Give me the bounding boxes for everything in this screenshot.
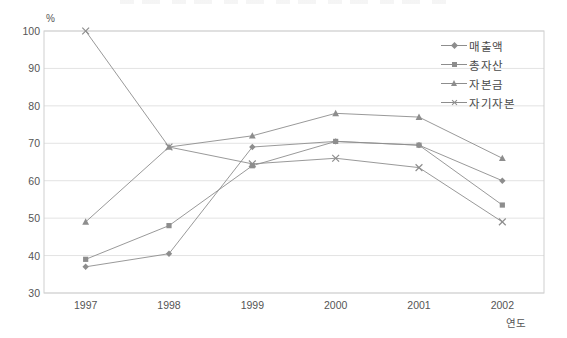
data-point-diamond xyxy=(82,264,88,270)
chart-legend: 매출액총자산자본금자기자본 xyxy=(441,38,515,110)
legend-marker-triangle-icon xyxy=(441,77,467,90)
x-axis-tick-label: 2001 xyxy=(407,299,430,311)
legend-marker-diamond-icon xyxy=(441,39,467,52)
data-point-square xyxy=(83,257,88,262)
x-axis-tick-label: 2002 xyxy=(491,299,514,311)
data-point-square xyxy=(416,143,421,148)
legend-marker-cross-icon xyxy=(441,96,467,109)
line-chart: % 10090807060504030 19971998199920002001… xyxy=(0,0,567,338)
x-axis-tick-label: 1997 xyxy=(74,299,97,311)
legend-item[interactable]: 총자산 xyxy=(441,57,515,72)
x-axis-tick-label: 1998 xyxy=(157,299,180,311)
series-line xyxy=(86,31,503,222)
data-point-square xyxy=(500,202,505,207)
legend-item-label: 총자산 xyxy=(469,57,504,73)
series-line xyxy=(86,113,503,222)
series-diamond xyxy=(82,138,505,270)
data-point-square xyxy=(333,139,338,144)
legend-item-label: 자기자본 xyxy=(469,95,515,111)
legend-item[interactable]: 매출액 xyxy=(441,38,515,53)
x-axis-tick-label: 1999 xyxy=(241,299,264,311)
x-axis-title: 연도 xyxy=(506,315,526,330)
legend-item-label: 매출액 xyxy=(469,38,504,54)
data-point-square xyxy=(166,223,171,228)
legend-item[interactable]: 자기자본 xyxy=(441,95,515,110)
legend-item[interactable]: 자본금 xyxy=(441,76,515,91)
data-point-triangle xyxy=(499,155,506,161)
series-square xyxy=(83,139,505,262)
series-line xyxy=(86,141,503,259)
series-triangle xyxy=(82,110,505,225)
data-point-diamond xyxy=(499,178,505,184)
data-point-triangle xyxy=(332,110,339,116)
data-point-cross xyxy=(499,218,506,225)
legend-item-label: 자본금 xyxy=(469,76,504,92)
x-axis-tick-label: 2000 xyxy=(324,299,347,311)
legend-marker-square-icon xyxy=(441,58,467,71)
